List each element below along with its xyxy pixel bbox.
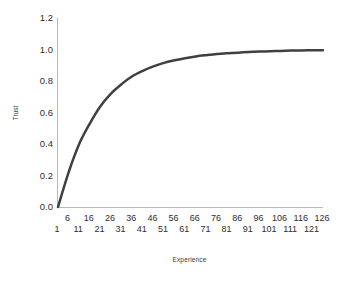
x-tick-label: 86 [232, 213, 242, 224]
x-tick-label: 51 [158, 224, 168, 235]
trust-curve [58, 50, 323, 207]
x-tick-label: 31 [116, 224, 126, 235]
x-tick-label: 111 [283, 224, 297, 235]
x-tick-label: 106 [272, 213, 287, 224]
y-tick-label: 1.2 [27, 13, 53, 23]
plot-area [57, 18, 323, 208]
x-tick-label: 91 [243, 224, 253, 235]
x-axis-label: Experience [57, 256, 322, 263]
x-tick-label: 56 [169, 213, 179, 224]
x-tick-label: 6 [65, 213, 70, 224]
x-tick-label: 46 [147, 213, 157, 224]
x-tick-label: 11 [74, 224, 83, 235]
x-tick-label: 61 [179, 224, 189, 235]
x-tick-label: 71 [200, 224, 210, 235]
x-tick-label: 1 [54, 224, 59, 235]
y-tick-label: 0.4 [27, 139, 53, 149]
trust-experience-chart: Trust 1.21.00.80.60.40.20.0 111213141516… [0, 0, 345, 283]
x-tick-label: 66 [190, 213, 200, 224]
y-axis-label: Trust [8, 18, 22, 207]
x-tick-label: 116 [294, 213, 308, 224]
x-tick-label: 36 [126, 213, 136, 224]
x-tick-label: 41 [137, 224, 147, 235]
x-tick-label: 16 [84, 213, 94, 224]
data-line-svg [58, 18, 323, 207]
y-tick-label: 1.0 [27, 45, 53, 55]
x-tick-label: 76 [211, 213, 221, 224]
y-tick-label: 0.6 [27, 108, 53, 118]
x-tick-label: 26 [105, 213, 115, 224]
y-tick-label: 0.2 [27, 171, 53, 181]
y-tick-label: 0.8 [27, 76, 53, 86]
y-axis-label-text: Trust [12, 105, 19, 120]
x-tick-label: 81 [222, 224, 232, 235]
x-tick-label: 101 [261, 224, 276, 235]
x-tick-label: 121 [304, 224, 319, 235]
x-tick-label: 96 [253, 213, 263, 224]
x-tick-label: 21 [94, 224, 104, 235]
x-tick-label: 126 [314, 213, 329, 224]
x-axis-ticks: 1112131415161718191101111121616263646566… [0, 207, 345, 241]
